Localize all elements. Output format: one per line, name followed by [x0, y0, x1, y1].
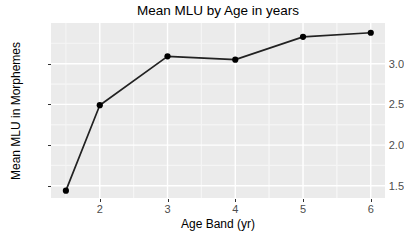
data-point-marker [97, 102, 103, 108]
y-tick-mark [48, 104, 51, 105]
x-tick-label: 6 [356, 202, 386, 216]
x-tick-mark [303, 199, 304, 202]
x-tick-label: 3 [153, 202, 183, 216]
y-tick-label: 2.5 [358, 97, 404, 111]
data-series-line [51, 23, 385, 198]
y-tick-label: 2.0 [358, 138, 404, 152]
y-tick-label: 1.5 [358, 179, 404, 193]
x-tick-label: 2 [85, 202, 115, 216]
data-point-marker [232, 57, 238, 63]
x-tick-label: 4 [220, 202, 250, 216]
x-tick-mark [100, 199, 101, 202]
x-tick-mark [235, 199, 236, 202]
x-tick-mark [371, 199, 372, 202]
chart-title: Mean MLU by Age in years [51, 2, 385, 20]
x-tick-label: 5 [288, 202, 318, 216]
data-point-marker [63, 188, 69, 194]
y-tick-mark [48, 186, 51, 187]
plot-panel [51, 23, 385, 198]
data-point-marker [368, 30, 374, 36]
chart-container: Mean MLU by Age in years 1.52.02.53.0 23… [0, 0, 404, 236]
y-tick-mark [48, 145, 51, 146]
y-axis-title: Mean MLU in Morphemes [8, 24, 24, 199]
data-point-marker [300, 34, 306, 40]
x-axis-title: Age Band (yr) [51, 216, 385, 232]
series-polyline [66, 33, 371, 191]
y-tick-label: 3.0 [358, 57, 404, 71]
y-tick-mark [48, 64, 51, 65]
data-point-marker [164, 53, 170, 59]
x-tick-mark [168, 199, 169, 202]
